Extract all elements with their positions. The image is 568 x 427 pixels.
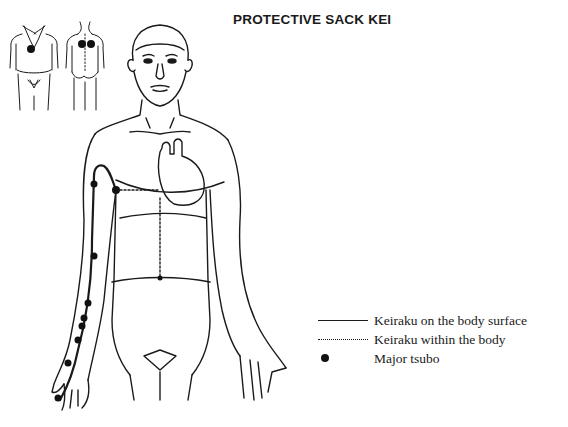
dotted-line-icon [318, 330, 368, 349]
heart [159, 139, 205, 205]
head [128, 25, 192, 106]
legend-label: Keiraku on the body surface [374, 313, 527, 329]
legend-label: Keiraku within the body [374, 332, 506, 348]
legend-item-tsubo: Major tsubo [318, 349, 527, 368]
inset-back-torso [66, 22, 104, 110]
inset-front-torso [10, 26, 58, 110]
torso-outline [52, 100, 286, 410]
legend: Keiraku on the body surface Keiraku with… [318, 311, 527, 368]
legend-item-internal: Keiraku within the body [318, 330, 527, 349]
solid-line-icon [318, 311, 368, 330]
dot-icon [318, 349, 368, 368]
keiraku-internal [116, 190, 160, 278]
legend-label: Major tsubo [374, 351, 440, 367]
legend-item-surface: Keiraku on the body surface [318, 311, 527, 330]
